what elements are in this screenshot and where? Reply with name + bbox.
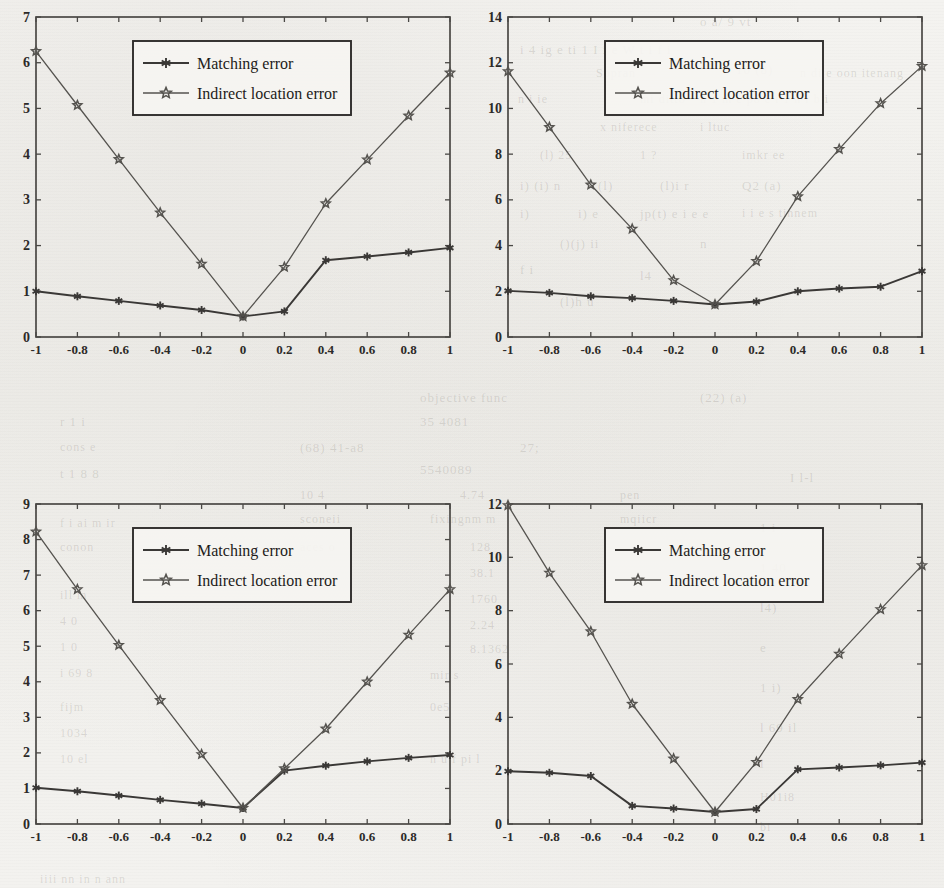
figure-bottom-left: -1-0.8-0.6-0.4-0.200.20.40.60.8101234567…	[0, 444, 472, 888]
legend-label: Matching error	[197, 542, 294, 560]
x-tick-label: 0.2	[748, 342, 764, 357]
x-tick-label: 0	[240, 829, 247, 844]
y-tick-label: 7	[23, 10, 30, 25]
y-tick-label: 2	[495, 763, 502, 778]
x-tick-label: -0.6	[109, 342, 130, 357]
x-tick-label: -1	[31, 342, 42, 357]
y-tick-label: 5	[23, 639, 30, 654]
x-tick-label: -0.2	[663, 342, 684, 357]
legend: Matching errorIndirect location error	[133, 528, 351, 602]
x-tick-label: 0	[712, 342, 719, 357]
y-tick-label: 4	[495, 238, 502, 253]
y-tick-label: 6	[495, 192, 502, 207]
figure-top-right: -1-0.8-0.6-0.4-0.200.20.40.60.8102468101…	[472, 0, 944, 444]
x-tick-label: -0.2	[663, 829, 684, 844]
x-tick-label: -1	[503, 829, 514, 844]
y-tick-label: 1	[23, 781, 30, 796]
y-tick-label: 0	[23, 330, 30, 345]
y-tick-label: 4	[23, 147, 30, 162]
y-tick-label: 6	[23, 55, 30, 70]
x-tick-label: -0.8	[67, 342, 88, 357]
x-tick-label: 0.4	[318, 342, 335, 357]
x-tick-label: -1	[503, 342, 514, 357]
figure-bottom-left-plot: -1-0.8-0.6-0.4-0.200.20.40.60.8101234567…	[0, 444, 472, 888]
y-tick-label: 5	[23, 101, 30, 116]
x-tick-label: -0.6	[581, 342, 602, 357]
y-tick-label: 9	[23, 497, 30, 512]
x-tick-label: 0.4	[790, 342, 807, 357]
x-tick-label: 0.8	[400, 342, 417, 357]
y-tick-label: 8	[23, 532, 30, 547]
x-tick-label: -0.8	[539, 829, 560, 844]
series-line-matching-error	[36, 248, 450, 317]
x-tick-label: 0.8	[872, 342, 889, 357]
y-tick-label: 2	[495, 284, 502, 299]
y-tick-label: 2	[23, 745, 30, 760]
x-tick-label: 0	[712, 829, 719, 844]
x-tick-label: -1	[31, 829, 42, 844]
y-tick-label: 6	[23, 603, 30, 618]
x-tick-label: -0.8	[67, 829, 88, 844]
x-tick-label: -0.4	[150, 342, 171, 357]
y-tick-label: 4	[495, 710, 502, 725]
y-tick-label: 0	[23, 817, 30, 832]
y-tick-label: 4	[23, 674, 30, 689]
x-tick-label: 0	[240, 342, 247, 357]
y-tick-label: 0	[495, 817, 502, 832]
y-tick-label: 8	[495, 603, 502, 618]
x-tick-label: 1	[447, 342, 454, 357]
y-tick-label: 8	[495, 147, 502, 162]
legend-label: Matching error	[669, 542, 766, 560]
x-tick-label: -0.6	[109, 829, 130, 844]
y-tick-label: 12	[488, 497, 502, 512]
legend-label: Indirect location error	[669, 85, 810, 102]
x-tick-label: 0.6	[359, 342, 376, 357]
figure-top-left: -1-0.8-0.6-0.4-0.200.20.40.60.8101234567…	[0, 0, 472, 444]
legend-label: Indirect location error	[197, 572, 338, 589]
legend: Matching errorIndirect location error	[605, 41, 823, 115]
x-tick-label: 0.8	[400, 829, 417, 844]
x-tick-label: 0.6	[831, 829, 848, 844]
x-tick-label: 0.6	[359, 829, 376, 844]
figure-top-left-plot: -1-0.8-0.6-0.4-0.200.20.40.60.8101234567…	[0, 0, 472, 444]
x-tick-label: 0.2	[748, 829, 764, 844]
y-tick-label: 10	[488, 550, 502, 565]
x-tick-label: 1	[447, 829, 454, 844]
y-tick-label: 3	[23, 192, 30, 207]
x-tick-label: 0.2	[276, 829, 292, 844]
y-tick-label: 1	[23, 284, 30, 299]
legend-label: Indirect location error	[197, 85, 338, 102]
y-tick-label: 14	[488, 10, 502, 25]
figure-bottom-right: -1-0.8-0.6-0.4-0.200.20.40.60.8102468101…	[472, 444, 944, 888]
legend: Matching errorIndirect location error	[605, 528, 823, 602]
x-tick-label: -0.6	[581, 829, 602, 844]
y-tick-label: 7	[23, 568, 30, 583]
x-tick-label: -0.2	[191, 342, 212, 357]
legend-label: Matching error	[669, 55, 766, 73]
x-tick-label: -0.2	[191, 829, 212, 844]
figure-top-right-plot: -1-0.8-0.6-0.4-0.200.20.40.60.8102468101…	[472, 0, 944, 444]
x-tick-label: -0.4	[622, 829, 643, 844]
legend-label: Matching error	[197, 55, 294, 73]
x-tick-label: 0.4	[790, 829, 807, 844]
legend-label: Indirect location error	[669, 572, 810, 589]
y-tick-label: 3	[23, 710, 30, 725]
series-line-matching-error	[508, 763, 922, 812]
figure-bottom-right-plot: -1-0.8-0.6-0.4-0.200.20.40.60.8102468101…	[472, 444, 944, 888]
x-tick-label: 0.6	[831, 342, 848, 357]
y-tick-label: 6	[495, 657, 502, 672]
y-tick-label: 10	[488, 101, 502, 116]
x-tick-label: -0.4	[150, 829, 171, 844]
x-tick-label: 1	[919, 829, 926, 844]
x-tick-label: 1	[919, 342, 926, 357]
x-tick-label: 0.4	[318, 829, 335, 844]
y-tick-label: 0	[495, 330, 502, 345]
x-tick-label: -0.8	[539, 342, 560, 357]
y-tick-label: 12	[488, 55, 502, 70]
series-line-matching-error	[36, 755, 450, 808]
x-tick-label: 0.8	[872, 829, 889, 844]
x-tick-label: 0.2	[276, 342, 292, 357]
x-tick-label: -0.4	[622, 342, 643, 357]
y-tick-label: 2	[23, 238, 30, 253]
legend: Matching errorIndirect location error	[133, 41, 351, 115]
